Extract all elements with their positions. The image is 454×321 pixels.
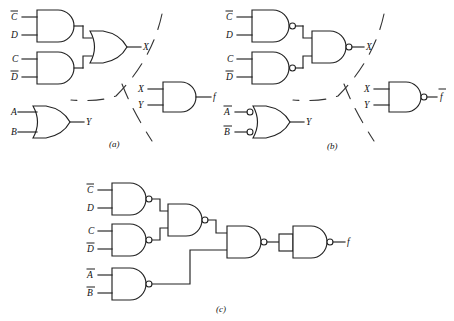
input-label-a-a: A [10,107,17,117]
gate-nand-c-dbar-b [237,52,303,84]
label-text: C [226,12,233,22]
label-text: D [225,72,233,82]
input-label-dbar-c2: D [86,243,95,254]
input-label-y-a: Y [138,100,145,110]
input-label-cbar-c1: C [87,184,95,195]
label-text: A [86,270,93,280]
label-text: D [10,72,18,82]
gate-nand-c-dbar-c [98,224,152,256]
caption-a: (a) [109,139,120,149]
input-label-d-c1: D [86,203,94,213]
gate-nand-fbar-b [374,82,437,112]
input-label-bbar-c: B [87,287,96,298]
input-label-cbar-a1: C [11,11,19,22]
label-text: A [223,107,230,117]
partition-curve-lower-a [122,84,152,141]
gate-nand-abar-bbar-c [98,268,152,300]
label-text: B [87,288,93,298]
panel-b: C D C D X [223,10,446,151]
input-label-c-c2: C [88,226,95,236]
input-label-dbar-b2: D [225,71,234,82]
caption-b: (b) [327,141,338,151]
panel-c: C D C D A [86,183,351,314]
output-label-y-a: Y [86,117,93,127]
label-text: C [11,12,18,22]
input-label-abar-b: A [223,106,232,117]
gate-or-x-a [90,31,141,63]
input-label-b-a: B [11,127,17,137]
gate-nand-x-b [312,31,364,63]
gate-nand-cbar-d-c [98,183,152,215]
input-label-d-a1: D [10,30,18,40]
label-text: f [440,92,444,102]
output-label-f-a: f [213,92,217,102]
gate-nand-cbar-d-b [237,10,303,42]
panel-a: C D C D X A [10,10,217,149]
input-label-d-b1: D [225,30,233,40]
gate-and-f-a [148,82,211,112]
input-label-c-b2: C [227,54,234,64]
output-label-y-b: Y [306,117,313,127]
gate-nand-merge-c [168,204,208,236]
label-text: D [86,244,94,254]
gate-nand-combine-c [227,226,267,258]
input-label-bbar-b: B [224,126,233,137]
gate-nand-inverter-c [293,226,345,258]
caption-c: (c) [216,304,226,314]
input-label-cbar-b1: C [226,11,234,22]
input-label-abar-c: A [86,269,95,280]
logic-circuit-figure: C D C D X A [0,0,454,321]
input-label-x-b: X [363,84,371,94]
gate-and-c-dbar-a [22,52,83,84]
label-text: C [87,185,94,195]
output-label-fbar-b: f [439,89,447,102]
input-label-c-a2: C [12,54,19,64]
gate-and-cbar-d-a [22,10,83,42]
gate-or-y-a [18,106,84,138]
output-label-f-c: f [347,237,351,247]
gate-or-inverted-inputs-y-b [235,106,304,138]
input-label-dbar-a2: D [10,71,19,82]
label-text: B [224,127,230,137]
input-label-y-b: Y [364,100,371,110]
input-label-x-a: X [137,84,145,94]
